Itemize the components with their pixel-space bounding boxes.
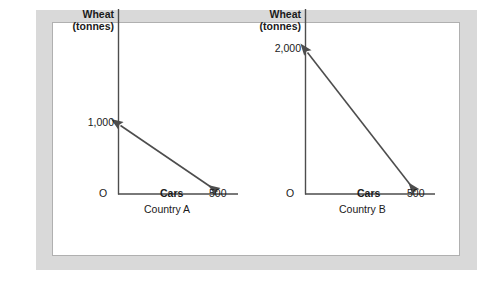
chart-a-y-axis-title-line2: (tonnes) [73, 20, 114, 32]
chart-b-ppf-line [308, 53, 416, 192]
chart-a-x-tick-label: 500 [209, 188, 227, 200]
chart-a-y-tick-label: 1,000 [52, 117, 114, 129]
chart-b-x-tick-label: 500 [407, 188, 425, 200]
chart-b-caption: Country B [339, 204, 386, 216]
chart-b-x-axis-title: Cars [357, 188, 380, 200]
chart-a-y-axis-title: Wheat (tonnes) [52, 9, 114, 33]
chart-b-y-axis-title: Wheat (tonnes) [239, 9, 301, 33]
figure-root: Wheat (tonnes) 1,000 O Cars 500 Country … [0, 0, 497, 286]
chart-b-y-tick-label: 2,000 [239, 43, 301, 55]
chart-country-a: Wheat (tonnes) 1,000 O Cars 500 Country … [52, 0, 252, 234]
chart-a-ppf-line [121, 126, 218, 192]
chart-b-origin-label: O [286, 188, 294, 200]
chart-a-x-axis-title: Cars [160, 188, 183, 200]
chart-a-caption: Country A [144, 204, 190, 216]
chart-a-y-axis-title-line1: Wheat [83, 8, 115, 20]
chart-b-y-axis-title-line2: (tonnes) [260, 20, 301, 32]
chart-a-origin-label: O [99, 188, 107, 200]
chart-b-y-axis-title-line1: Wheat [270, 8, 302, 20]
chart-country-b: Wheat (tonnes) 2,000 O Cars 500 Country … [239, 0, 439, 234]
